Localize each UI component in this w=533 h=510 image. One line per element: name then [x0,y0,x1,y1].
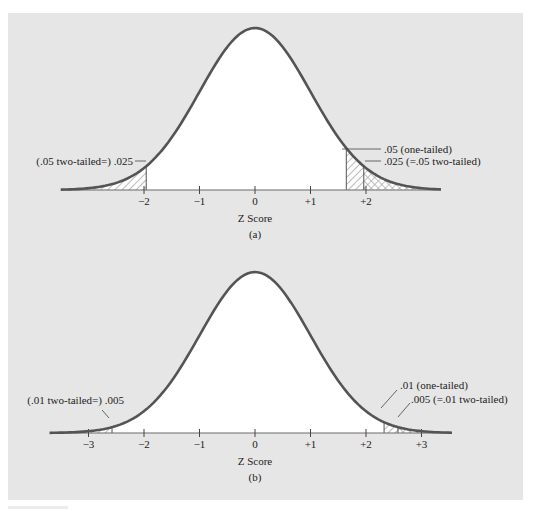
figure: −2−10+1+2 (.05 two-tailed=) .025 .05 (on… [0,0,533,510]
tick-label: −1 [194,195,206,207]
annotation-one-tailed: .01 (one-tailed) [400,379,468,392]
tick-label: +2 [360,195,372,207]
tick-label: 0 [252,438,258,450]
tick-label: +2 [360,438,372,450]
tick-label: +1 [305,438,317,450]
tick-label: −1 [194,438,206,450]
panel-caption: (a) [249,228,262,241]
annotation-two-tailed: .005 (=.01 two-tailed) [411,393,508,406]
tick-label: 0 [252,195,258,207]
bottom-smudge [8,506,68,509]
annotation-two-tailed: .025 (=.05 two-tailed) [384,155,481,168]
x-axis-label: Z Score [238,455,273,467]
annotation-left: (.01 two-tailed=) .005 [27,394,124,407]
tick-label: +3 [416,438,428,450]
tick-label: +1 [305,195,317,207]
tick-label: −2 [138,195,150,207]
annotation-left: (.05 two-tailed=) .025 [36,155,133,168]
x-axis-label: Z Score [238,212,273,224]
tick-label: −2 [138,438,150,450]
panel-caption: (b) [249,471,262,484]
tick-label: −3 [83,438,95,450]
